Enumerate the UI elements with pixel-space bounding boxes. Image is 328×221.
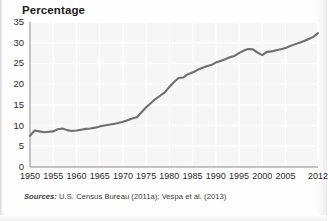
y-tick-label: 15 — [4, 99, 24, 110]
y-tick-label: 20 — [4, 78, 24, 89]
x-tick-label: 1980 — [159, 171, 179, 181]
y-tick-label: 10 — [4, 120, 24, 131]
x-tick-label: 1995 — [229, 171, 249, 181]
sources-label: Sources: — [24, 192, 57, 201]
x-tick-label: 1960 — [66, 171, 86, 181]
x-tick-label: 1985 — [183, 171, 203, 181]
x-tick-label: 1955 — [43, 171, 63, 181]
y-tick-label: 30 — [4, 37, 24, 48]
x-tick-label: 2005 — [275, 171, 295, 181]
y-tick-label: 25 — [4, 57, 24, 68]
x-tick-label: 1990 — [206, 171, 226, 181]
x-tick-label: 2012 — [308, 171, 328, 181]
x-tick-label: 2000 — [252, 171, 272, 181]
x-tick-label: 1975 — [136, 171, 156, 181]
x-tick-label: 1970 — [113, 171, 133, 181]
x-tick-label: 1950 — [20, 171, 40, 181]
y-tick-label: 5 — [4, 140, 24, 151]
sources-text: U.S. Census Bureau (2011a); Vespa et al.… — [57, 192, 226, 201]
sources-note: Sources: U.S. Census Bureau (2011a); Ves… — [24, 192, 226, 201]
x-tick-label: 1965 — [90, 171, 110, 181]
y-tick-label: 35 — [4, 16, 24, 27]
plot-background — [30, 22, 318, 167]
plot-background-rect — [30, 22, 318, 167]
